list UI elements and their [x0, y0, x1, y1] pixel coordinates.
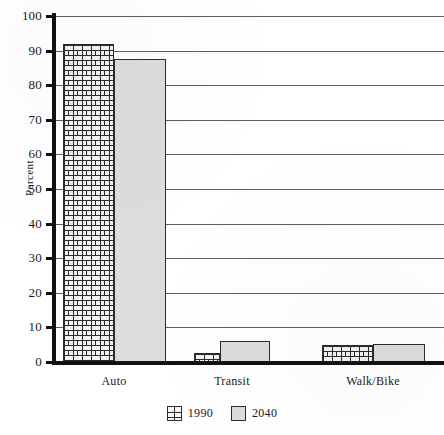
y-axis-tick: [46, 50, 56, 53]
legend-label-1990: 1990: [188, 406, 213, 421]
y-axis-tick: [46, 292, 56, 295]
y-axis-tick-label: 30: [0, 251, 42, 264]
y-axis-title: Percent: [23, 143, 35, 213]
x-axis-label-auto: Auto: [54, 374, 174, 389]
y-axis-tick: [46, 257, 56, 260]
gridline: [56, 16, 444, 17]
y-axis-tick-label: 50: [0, 182, 42, 195]
chart-legend: 1990 2040: [0, 406, 444, 421]
gridline: [56, 51, 444, 52]
y-axis-tick-label: 90: [0, 44, 42, 57]
y-axis-tick: [46, 153, 56, 156]
y-axis-tick-label: 20: [0, 286, 42, 299]
legend-label-2040: 2040: [252, 406, 277, 421]
bar-chart: 1009080706050403020100 Percent AutoTrans…: [0, 0, 444, 435]
y-axis-tick: [46, 223, 56, 226]
bar-walk-bike-1990: [322, 345, 373, 362]
y-axis-tick: [46, 188, 56, 191]
y-axis-tick: [46, 326, 56, 329]
y-axis-tick-label: 10: [0, 320, 42, 333]
y-axis-tick-label: 70: [0, 113, 42, 126]
y-axis-tick-label: 100: [0, 9, 42, 22]
bar-walk-bike-2040: [373, 344, 425, 362]
y-axis-tick-label: 40: [0, 217, 42, 230]
y-axis-tick: [46, 84, 56, 87]
plot-area: [56, 16, 444, 362]
y-axis-tick: [46, 119, 56, 122]
bar-auto-2040: [114, 59, 166, 362]
y-axis-tick-label: 60: [0, 147, 42, 160]
y-axis-tick: [46, 15, 56, 18]
bar-transit-2040: [220, 341, 270, 362]
x-axis-line: [52, 361, 444, 365]
legend-item-1990[interactable]: 1990: [167, 406, 213, 421]
legend-swatch-brick-icon: [167, 406, 182, 421]
legend-item-2040[interactable]: 2040: [231, 406, 277, 421]
legend-swatch-gray-icon: [231, 406, 246, 421]
bar-auto-1990: [63, 44, 114, 362]
y-axis-tick-label: 80: [0, 78, 42, 91]
y-axis-tick-label: 0: [0, 355, 42, 368]
y-axis-tick: [46, 361, 56, 364]
x-axis-label-walk-bike: Walk/Bike: [313, 374, 433, 389]
x-axis-label-transit: Transit: [172, 374, 292, 389]
